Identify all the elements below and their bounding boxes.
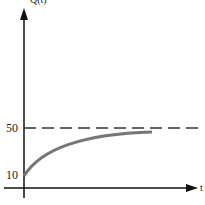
- curve: [24, 132, 152, 176]
- y-axis-label: Q(t): [30, 0, 47, 5]
- tick-10: 10: [6, 168, 18, 183]
- x-axis-arrow-icon: [186, 184, 198, 192]
- y-axis-arrow-icon: [20, 8, 28, 20]
- chart-canvas: [0, 0, 205, 205]
- x-axis-label: t: [200, 182, 203, 193]
- tick-50: 50: [6, 121, 18, 136]
